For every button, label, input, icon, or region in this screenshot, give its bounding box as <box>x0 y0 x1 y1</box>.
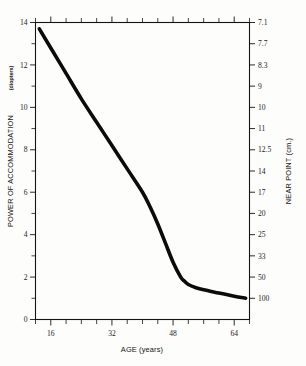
y-tick-label: 4 <box>24 230 28 239</box>
y2-tick-label: 17 <box>258 188 266 197</box>
x-tick-label: 48 <box>169 329 177 338</box>
y2-tick-label: 20 <box>258 209 266 218</box>
y2-tick-label: 100 <box>258 294 270 303</box>
y-axis-ticks-right <box>250 23 256 299</box>
y-tick-label: 2 <box>24 273 28 282</box>
y-axis-ticks-left <box>30 23 36 320</box>
y-tick-label: 8 <box>24 145 28 154</box>
x-tick-label: 64 <box>230 329 238 338</box>
y2-tick-label: 50 <box>258 273 266 282</box>
x-tick-label: 32 <box>108 329 116 338</box>
y2-tick-label: 10 <box>258 103 266 112</box>
y2-tick-label: 7.1 <box>258 18 268 27</box>
y2-axis-tick-labels: 7.17.78.39101112.5141720253350100 <box>258 18 271 303</box>
accommodation-age-chart: 16324864 02468101214 7.17.78.39101112.51… <box>0 0 306 366</box>
y-axis-tick-labels: 02468101214 <box>20 18 28 324</box>
y-axis-title: POWER OF ACCOMMODATION <box>6 115 15 227</box>
y-tick-label: 12 <box>20 61 28 70</box>
y2-tick-label: 8.3 <box>258 61 268 70</box>
y2-tick-label: 33 <box>258 252 266 261</box>
x-tick-label: 16 <box>47 329 55 338</box>
y-tick-label: 10 <box>20 103 28 112</box>
y2-tick-label: 14 <box>258 167 266 176</box>
x-axis-ticks-bottom <box>36 320 250 326</box>
plot-frame <box>36 23 250 320</box>
y2-tick-label: 7.7 <box>258 39 268 48</box>
y2-tick-label: 12.5 <box>258 145 271 154</box>
y-tick-label: 6 <box>24 188 28 197</box>
y2-tick-label: 11 <box>258 124 266 133</box>
y2-tick-label: 25 <box>258 230 266 239</box>
y-tick-label: 14 <box>20 18 28 27</box>
x-axis-title: AGE (years) <box>121 345 163 354</box>
x-axis-tick-labels: 16324864 <box>47 329 238 338</box>
x-axis-ticks-top <box>36 17 250 23</box>
y2-axis-title: NEAR POINT (cm.) <box>284 138 293 204</box>
accommodation-curve <box>39 29 245 298</box>
y-axis-units-label: (diopters) <box>8 66 14 91</box>
y-tick-label: 0 <box>24 315 28 324</box>
y2-tick-label: 9 <box>258 82 262 91</box>
chart-canvas: 16324864 02468101214 7.17.78.39101112.51… <box>0 0 306 366</box>
